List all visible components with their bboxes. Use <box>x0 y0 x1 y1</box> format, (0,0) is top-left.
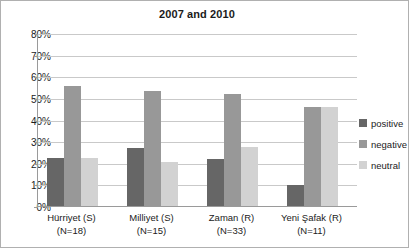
y-axis-tick <box>34 56 38 57</box>
legend-label: negative <box>371 139 407 150</box>
category-sample-size: (N=11) <box>262 224 362 237</box>
chart-legend: positivenegativeneutral <box>359 115 407 178</box>
legend-swatch-icon <box>359 140 367 148</box>
bar-group <box>127 34 178 206</box>
y-axis-tick <box>34 207 38 208</box>
bar-neutral[interactable] <box>241 147 258 206</box>
bar-negative[interactable] <box>304 107 321 206</box>
legend-label: neutral <box>371 160 400 171</box>
bar-neutral[interactable] <box>321 107 338 206</box>
y-axis-tick <box>34 121 38 122</box>
bar-group <box>287 34 338 206</box>
bar-positive[interactable] <box>127 148 144 206</box>
legend-swatch-icon <box>359 119 367 127</box>
category-name: Yeni Şafak (R) <box>262 211 362 224</box>
y-axis-tick <box>34 185 38 186</box>
bar-negative[interactable] <box>64 86 81 206</box>
bar-positive[interactable] <box>207 159 224 206</box>
bar-group <box>207 34 258 206</box>
y-axis-tick <box>34 164 38 165</box>
bar-negative[interactable] <box>144 91 161 206</box>
bar-positive[interactable] <box>47 158 64 206</box>
legend-swatch-icon <box>359 161 367 169</box>
legend-item[interactable]: neutral <box>359 157 407 173</box>
x-axis-category-label: Yeni Şafak (R)(N=11) <box>262 211 362 237</box>
bar-group <box>47 34 98 206</box>
legend-item[interactable]: positive <box>359 115 407 131</box>
bar-negative[interactable] <box>224 94 241 206</box>
y-axis-tick <box>34 142 38 143</box>
chart-container: 2007 and 2010 0%10%20%30%40%50%60%70%80%… <box>0 0 409 248</box>
legend-label: positive <box>371 118 403 129</box>
bar-neutral[interactable] <box>81 158 98 206</box>
y-axis-tick <box>34 77 38 78</box>
chart-title: 2007 and 2010 <box>37 8 357 20</box>
bar-neutral[interactable] <box>161 162 178 206</box>
bar-positive[interactable] <box>287 185 304 206</box>
y-axis-tick <box>34 99 38 100</box>
legend-item[interactable]: negative <box>359 136 407 152</box>
plot-area <box>37 34 357 207</box>
y-axis-tick <box>34 34 38 35</box>
